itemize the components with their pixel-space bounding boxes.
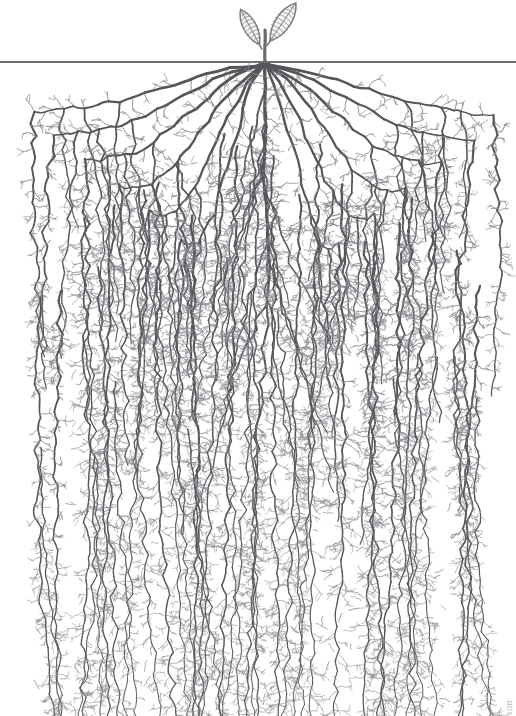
root-segment bbox=[54, 454, 55, 465]
root-segment bbox=[193, 238, 194, 250]
root-hair bbox=[266, 268, 269, 269]
root-segment bbox=[114, 205, 115, 217]
root-hair bbox=[247, 298, 253, 299]
root-hair bbox=[256, 307, 259, 308]
root-segment bbox=[155, 323, 156, 337]
lateral-root bbox=[409, 160, 419, 161]
root-segment bbox=[227, 487, 228, 496]
root-segment bbox=[413, 287, 414, 296]
root-segment bbox=[357, 217, 358, 229]
root-segment bbox=[106, 588, 107, 597]
root-hair bbox=[381, 394, 385, 395]
root-segment bbox=[91, 396, 92, 407]
root-segment bbox=[214, 288, 215, 297]
root-segment bbox=[295, 462, 296, 469]
root-segment bbox=[108, 433, 109, 447]
root-segment bbox=[175, 233, 176, 244]
root-segment bbox=[296, 450, 297, 462]
root-segment bbox=[316, 168, 317, 177]
root-hair bbox=[379, 519, 382, 520]
root-hair bbox=[407, 379, 412, 380]
root-segment bbox=[176, 400, 177, 413]
root-segment bbox=[284, 389, 285, 399]
root-segment bbox=[352, 170, 353, 182]
root-hair bbox=[134, 192, 135, 197]
root-segment bbox=[243, 217, 244, 230]
root-segment bbox=[219, 177, 220, 188]
root-segment bbox=[227, 258, 228, 269]
root-segment bbox=[252, 347, 253, 356]
root-segment bbox=[464, 349, 465, 362]
root-segment bbox=[279, 617, 280, 628]
root-hair bbox=[102, 346, 103, 351]
root-segment bbox=[249, 382, 250, 393]
root-segment bbox=[116, 460, 117, 471]
root-segment bbox=[403, 210, 404, 221]
root-segment bbox=[86, 646, 87, 655]
root-segment bbox=[42, 499, 43, 513]
root-segment bbox=[409, 419, 410, 428]
root-segment bbox=[425, 183, 426, 193]
root-segment bbox=[249, 366, 250, 376]
taproot-segment bbox=[263, 159, 264, 178]
root-segment bbox=[416, 522, 417, 534]
root-segment bbox=[341, 197, 342, 206]
root-hair bbox=[132, 236, 133, 239]
root-segment bbox=[395, 147, 396, 155]
root-hair bbox=[458, 342, 464, 343]
root-segment bbox=[62, 291, 63, 303]
root-segment bbox=[259, 401, 260, 412]
root-segment bbox=[157, 282, 158, 295]
root-hair bbox=[466, 410, 467, 415]
root-segment bbox=[383, 210, 384, 221]
root-segment bbox=[204, 694, 205, 705]
root-segment bbox=[455, 357, 456, 367]
root-segment bbox=[107, 542, 108, 554]
root-segment bbox=[234, 344, 235, 354]
root-segment bbox=[411, 198, 412, 211]
root-segment bbox=[42, 300, 43, 313]
root-segment bbox=[257, 456, 258, 468]
root-hair bbox=[477, 458, 478, 462]
root-segment bbox=[473, 152, 474, 162]
root-segment bbox=[341, 184, 342, 197]
root-segment bbox=[379, 592, 380, 604]
root-segment bbox=[405, 188, 406, 197]
image-credit-text: Image: David Pearson bbox=[503, 700, 514, 716]
root-segment bbox=[107, 519, 108, 532]
root-segment bbox=[233, 290, 234, 300]
root-segment bbox=[34, 507, 35, 517]
root-segment bbox=[225, 454, 226, 465]
root-hair bbox=[459, 325, 465, 326]
root-segment bbox=[393, 378, 394, 388]
root-segment bbox=[159, 521, 160, 532]
root-segment bbox=[257, 115, 258, 125]
root-segment bbox=[300, 206, 301, 217]
taproot-segment bbox=[265, 108, 266, 127]
root-segment bbox=[274, 323, 275, 332]
root-segment bbox=[415, 420, 416, 431]
lateral-root bbox=[471, 115, 482, 116]
root-segment bbox=[255, 314, 256, 327]
root-segment bbox=[257, 471, 258, 479]
root-segment bbox=[408, 352, 409, 364]
root-segment bbox=[363, 695, 364, 709]
root-segment bbox=[159, 475, 160, 489]
root-segment bbox=[206, 550, 207, 561]
root-segment bbox=[249, 314, 250, 325]
root-segment bbox=[162, 236, 163, 248]
taproot-segment bbox=[265, 127, 266, 141]
root-segment bbox=[107, 643, 108, 651]
root-segment bbox=[376, 233, 377, 242]
root-segment bbox=[491, 387, 492, 396]
root-segment bbox=[140, 401, 141, 411]
root-hair bbox=[351, 222, 359, 223]
root-segment bbox=[280, 290, 281, 302]
root-hair bbox=[50, 490, 51, 493]
root-segment bbox=[363, 491, 364, 499]
root-segment bbox=[434, 246, 435, 258]
root-segment bbox=[283, 378, 284, 389]
root-segment bbox=[293, 492, 294, 506]
root-segment bbox=[456, 281, 457, 293]
root-segment bbox=[233, 333, 234, 344]
